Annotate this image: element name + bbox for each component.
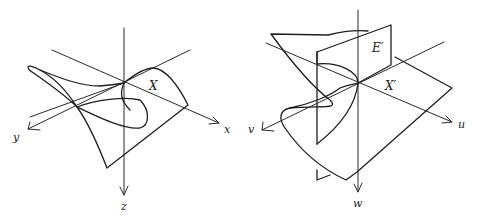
v-axis — [262, 42, 444, 130]
extra-line — [30, 83, 124, 117]
x-axis — [52, 50, 219, 123]
diagram-canvas: X x y z E′ X′ u v w — [0, 0, 481, 220]
axis-label-z: z — [120, 200, 127, 213]
axis-label-u: u — [458, 118, 465, 131]
surface-X-prime-outline — [271, 31, 452, 180]
left-figure: X x y z — [12, 28, 231, 213]
y-axis — [28, 50, 190, 129]
axis-label-v: v — [248, 123, 255, 136]
surface-label-X: X — [148, 79, 158, 93]
surface-label-X-prime: X′ — [384, 79, 397, 93]
axis-label-x: x — [224, 123, 231, 136]
plane-label-E-prime: E′ — [371, 41, 384, 55]
axis-label-y: y — [12, 131, 20, 144]
axis-label-w: w — [353, 197, 363, 210]
v-arrow-icon — [262, 122, 274, 131]
right-figure: E′ X′ u v w — [248, 10, 465, 210]
